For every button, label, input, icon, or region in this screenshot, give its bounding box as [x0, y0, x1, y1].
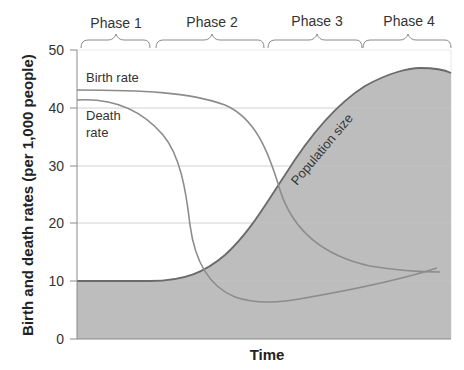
- y-tick-20: 20: [48, 215, 64, 231]
- phase-braces: [81, 34, 451, 48]
- y-tick-30: 30: [48, 158, 64, 174]
- phase-3-label: Phase 3: [291, 13, 343, 29]
- phase-4-label: Phase 4: [383, 13, 435, 29]
- y-tick-10: 10: [48, 273, 64, 289]
- y-tick-0: 0: [56, 331, 64, 347]
- death-rate-label-line2: rate: [86, 125, 108, 140]
- death-rate-label-line1: Death: [86, 108, 121, 123]
- y-tick-50: 50: [48, 42, 64, 58]
- x-axis-title: Time: [250, 346, 285, 363]
- y-tick-labels: 50 40 30 20 10 0: [48, 42, 64, 347]
- birth-rate-label: Birth rate: [86, 70, 139, 85]
- phase-2-label: Phase 2: [186, 14, 238, 30]
- y-tick-40: 40: [48, 100, 64, 116]
- demographic-transition-chart: 50 40 30 20 10 0 Birth and death rates (…: [0, 0, 464, 370]
- phase-1-label: Phase 1: [90, 15, 142, 31]
- y-axis-title: Birth and death rates (per 1,000 people): [19, 54, 36, 336]
